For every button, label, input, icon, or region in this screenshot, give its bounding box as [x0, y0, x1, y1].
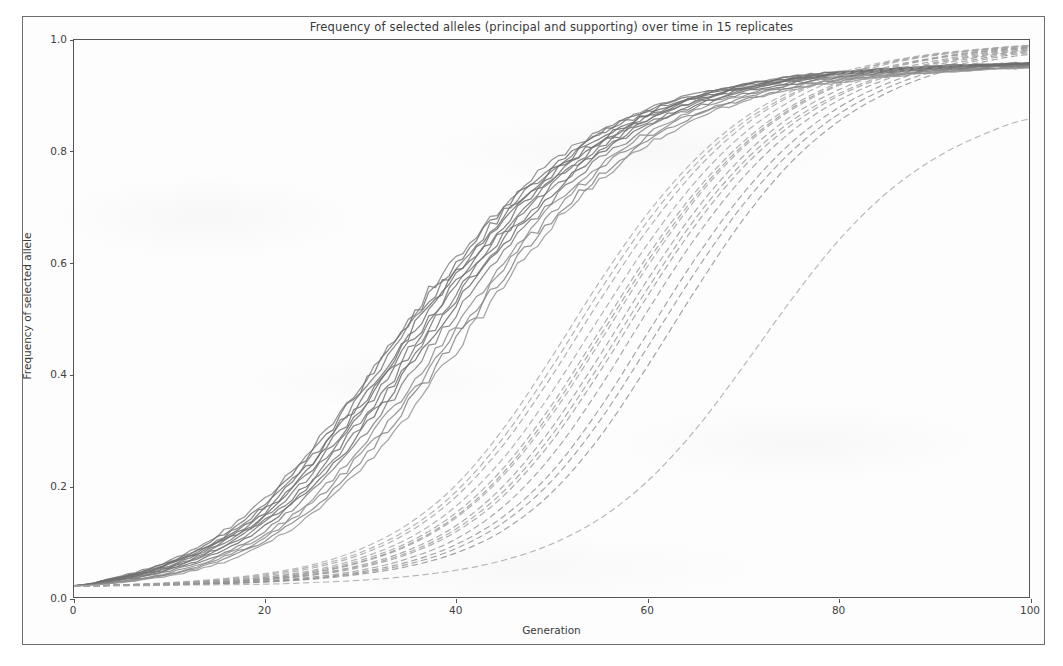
principal-allele-line — [74, 66, 1029, 587]
supporting-allele-line — [74, 47, 1029, 586]
supporting-allele-line — [74, 47, 1029, 586]
plot-svg — [74, 40, 1029, 597]
x-tick-mark — [456, 599, 457, 603]
y-tick-label: 0.0 — [33, 592, 67, 604]
x-tick-labels: 020406080100 — [73, 604, 1030, 620]
x-tick-mark — [648, 599, 649, 603]
principal-allele-line — [74, 63, 1029, 586]
plot-area — [73, 39, 1030, 598]
supporting-allele-line — [74, 51, 1029, 586]
x-tick-mark — [265, 599, 266, 603]
supporting-allele-line — [74, 48, 1029, 586]
supporting-allele-line — [74, 46, 1029, 586]
principal-allele-line — [74, 62, 1029, 586]
y-tick-label: 0.8 — [33, 145, 67, 157]
principal-allele-line — [74, 63, 1029, 586]
y-tick-mark — [70, 151, 74, 152]
supporting-allele-line — [74, 54, 1029, 585]
x-tick-label: 100 — [1010, 604, 1050, 616]
x-axis-label: Generation — [73, 624, 1030, 636]
supporting-allele-line — [74, 46, 1029, 586]
principal-allele-line — [74, 63, 1029, 586]
x-tick-mark — [839, 599, 840, 603]
x-tick-mark — [1031, 599, 1032, 603]
supporting-allele-line — [74, 48, 1029, 586]
x-tick-label: 40 — [436, 604, 476, 616]
x-tick-label: 60 — [627, 604, 667, 616]
principal-allele-line — [74, 63, 1029, 586]
supporting-allele-line — [74, 49, 1029, 586]
principal-allele-line — [74, 68, 1029, 586]
principal-allele-line — [74, 66, 1029, 586]
y-tick-mark — [70, 487, 74, 488]
x-tick-mark — [74, 599, 75, 603]
y-axis-label: Frequency of selected allele — [21, 226, 33, 386]
supporting-allele-line — [74, 46, 1029, 586]
supporting-allele-line — [74, 53, 1029, 586]
principal-allele-line — [74, 64, 1029, 585]
y-tick-label: 0.4 — [33, 368, 67, 380]
principal-allele-line — [74, 66, 1029, 586]
principal-allele-line — [74, 63, 1029, 586]
x-tick-label: 20 — [244, 604, 284, 616]
principal-allele-line — [74, 67, 1029, 586]
principal-allele-line — [74, 67, 1029, 586]
principal-allele-line — [74, 64, 1029, 586]
supporting-allele-line — [74, 46, 1029, 586]
x-tick-label: 80 — [819, 604, 859, 616]
y-tick-labels: 0.00.20.40.60.81.0 — [29, 39, 67, 598]
series-layer — [74, 46, 1029, 587]
y-tick-mark — [70, 263, 74, 264]
y-tick-label: 1.0 — [33, 33, 67, 45]
chart-title: Frequency of selected alleles (principal… — [73, 20, 1030, 34]
y-tick-label: 0.2 — [33, 480, 67, 492]
y-tick-mark — [70, 40, 74, 41]
supporting-allele-line — [74, 52, 1029, 586]
figure-root: Frequency of selected alleles (principal… — [0, 0, 1063, 666]
principal-allele-line — [74, 64, 1029, 586]
y-tick-label: 0.6 — [33, 257, 67, 269]
y-tick-mark — [70, 375, 74, 376]
supporting-allele-line — [74, 50, 1029, 586]
x-tick-label: 0 — [53, 604, 93, 616]
